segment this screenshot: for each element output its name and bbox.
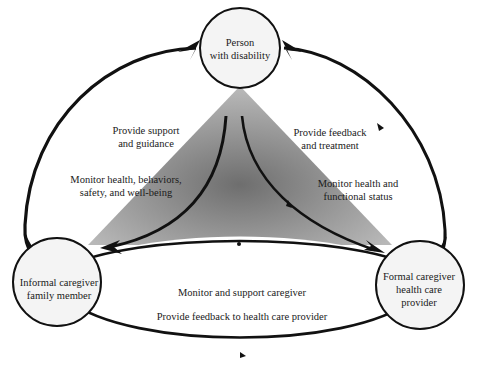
arrow-mid-bottom (240, 352, 246, 358)
label-provide-feedback-treatment: Provide feedback and treatment (293, 127, 367, 151)
label-provide-support: Provide support and guidance (113, 125, 180, 149)
svg-text:safety, and well-being: safety, and well-being (80, 187, 173, 198)
node-informal-caregiver: Informal caregiver family member (13, 238, 101, 326)
arrow-mid-right-outer (377, 123, 384, 131)
node-label-line: Formal caregiver (383, 271, 456, 282)
node-formal-caregiver: Formal caregiver health care provider (376, 241, 464, 329)
node-label-line: provider (401, 297, 437, 308)
svg-text:Monitor health and: Monitor health and (318, 178, 399, 189)
svg-text:Provide feedback: Provide feedback (293, 127, 367, 138)
svg-text:and treatment: and treatment (301, 140, 359, 151)
arc-midpoint-marker (237, 242, 241, 246)
node-label-line: health care (396, 284, 442, 295)
node-person-with-disability: Person with disability (200, 8, 280, 88)
label-monitor-support-caregiver: Monitor and support caregiver (178, 287, 307, 298)
node-label-line: Person (226, 37, 255, 48)
node-label-line: Informal caregiver (20, 277, 99, 288)
shaded-triangle (88, 86, 392, 245)
svg-text:Monitor health, behaviors,: Monitor health, behaviors, (70, 174, 181, 185)
node-label-line: family member (27, 290, 92, 301)
care-triad-diagram: Person with disability Informal caregive… (0, 0, 480, 372)
svg-text:Provide support: Provide support (113, 125, 180, 136)
svg-text:functional status: functional status (323, 191, 392, 202)
node-label-line: with disability (210, 50, 271, 61)
label-provide-feedback-provider: Provide feedback to health care provider (157, 311, 328, 322)
svg-text:and guidance: and guidance (118, 138, 174, 149)
